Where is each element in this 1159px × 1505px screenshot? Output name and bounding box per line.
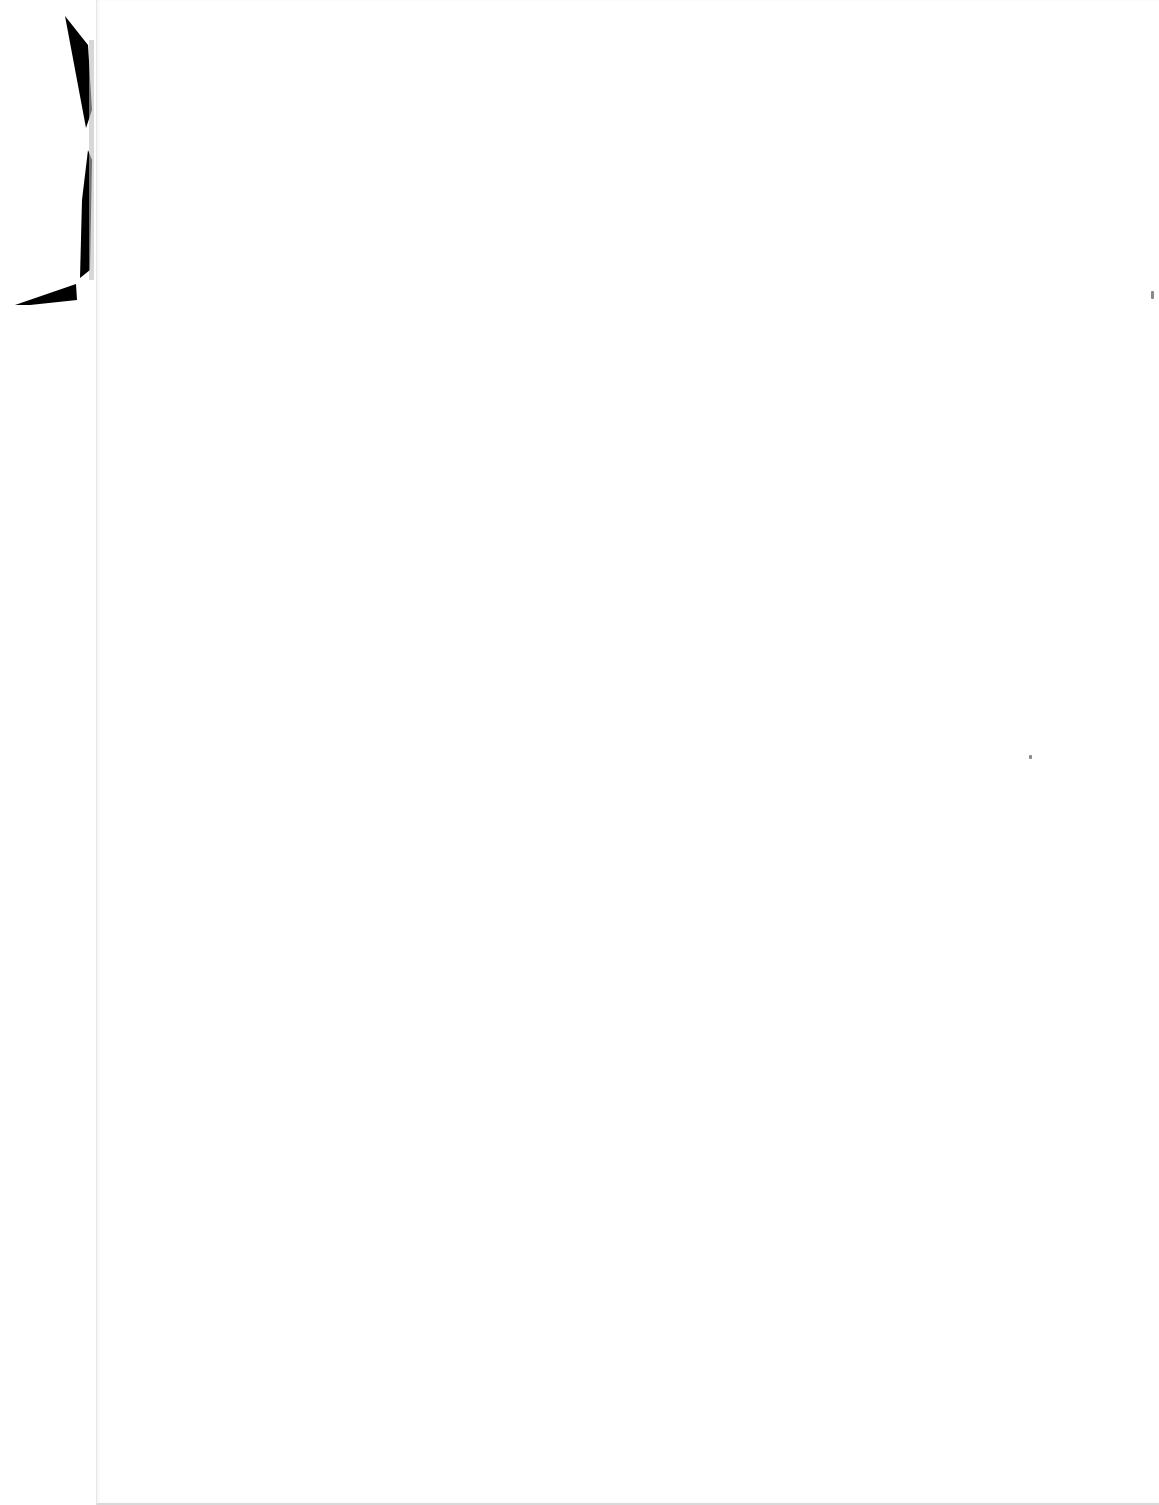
blank-page [96,0,1159,1505]
scan-edge-artifact [0,0,110,320]
scan-speck [1151,291,1154,299]
scan-speck [1029,755,1032,759]
